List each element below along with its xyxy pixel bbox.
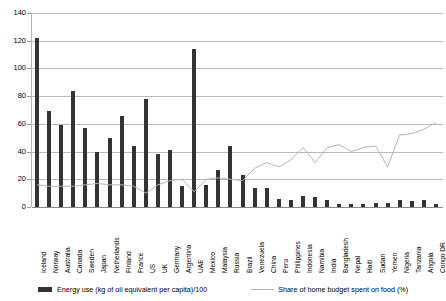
legend-label-food-budget: Share of home budget spent on food (%): [278, 285, 408, 294]
bar-swatch-icon: [38, 287, 52, 292]
y-tickmark-60: [27, 124, 31, 125]
y-tickmark-100: [27, 68, 31, 69]
x-tick-label: Peru: [282, 259, 289, 273]
x-tick-label: Mexico: [209, 252, 216, 273]
bar: [156, 154, 160, 207]
bar: [313, 197, 317, 207]
bar: [71, 91, 75, 207]
bar: [241, 175, 245, 207]
x-tick-label: China: [270, 256, 277, 273]
bar: [398, 200, 402, 207]
bar: [337, 204, 341, 207]
bar: [374, 203, 378, 207]
x-tick-label: India: [330, 259, 337, 273]
x-tick-label: US: [149, 264, 156, 273]
y-tick-label-0: 0: [22, 203, 26, 211]
bar: [301, 196, 305, 207]
gridline-0: [32, 207, 443, 208]
chart-container: 020406080100120140 IcelandNorwayAustrali…: [0, 0, 446, 301]
y-tickmark-120: [27, 41, 31, 42]
x-tick-label: Namibia: [318, 249, 325, 273]
bar: [192, 49, 196, 207]
bar: [386, 203, 390, 207]
bar: [132, 146, 136, 207]
bar: [253, 188, 257, 207]
bar: [83, 128, 87, 207]
x-tick-label: Indonesia: [306, 244, 313, 273]
x-axis-labels: IcelandNorwayAustraliaCanadaSwedenJapanN…: [31, 209, 442, 275]
bar: [35, 38, 39, 207]
bar: [144, 99, 148, 207]
bar-series: [31, 13, 442, 207]
x-tick-label: Sudan: [379, 254, 386, 273]
legend-label-energy-use: Energy use (kg of oil equivalent per cap…: [57, 285, 207, 294]
bar: [168, 150, 172, 207]
x-tick-label: Argentina: [185, 245, 192, 273]
y-axis: 020406080100120140: [0, 0, 28, 215]
bar: [47, 111, 51, 207]
bar: [325, 200, 329, 207]
y-tick-label-120: 120: [13, 37, 26, 45]
bar: [59, 125, 63, 207]
bar: [120, 116, 124, 207]
x-tick-label: Bangladesh: [342, 238, 349, 273]
bar: [204, 185, 208, 207]
x-tick-label: Norway: [52, 251, 59, 273]
x-tick-label: Congo DR: [439, 242, 446, 273]
y-tick-label-140: 140: [13, 9, 26, 17]
x-tick-label: Russia: [233, 253, 240, 273]
bar: [108, 138, 112, 207]
bar: [216, 170, 220, 207]
x-tick-label: Netherlands: [113, 237, 120, 273]
bar: [289, 200, 293, 207]
x-tick-label: Japan: [100, 255, 107, 273]
bar: [422, 200, 426, 207]
x-tick-label: Yemen: [391, 253, 398, 273]
bar: [95, 152, 99, 207]
y-tickmark-80: [27, 96, 31, 97]
bar: [180, 186, 184, 207]
y-tick-label-40: 40: [18, 148, 26, 156]
legend-item-energy-use: Energy use (kg of oil equivalent per cap…: [38, 285, 207, 294]
y-tickmark-40: [27, 152, 31, 153]
bar: [434, 204, 438, 207]
x-tick-label: UAE: [197, 259, 204, 273]
x-tick-label: Venezuela: [258, 242, 265, 273]
bar: [361, 204, 365, 207]
line-swatch-icon: [251, 289, 273, 290]
bar: [410, 201, 414, 207]
legend-item-food-budget: Share of home budget spent on food (%): [251, 285, 408, 294]
y-tickmark-20: [27, 179, 31, 180]
y-tick-label-100: 100: [13, 64, 26, 72]
y-tick-label-80: 80: [18, 92, 26, 100]
y-tickmark-140: [27, 13, 31, 14]
x-tick-label: Canada: [76, 250, 83, 273]
x-tick-label: Philippines: [294, 241, 301, 273]
x-tick-label: UK: [161, 264, 168, 273]
x-tick-label: Angola: [427, 252, 434, 273]
x-tick-label: Brazil: [246, 257, 253, 274]
bar: [228, 146, 232, 207]
y-tick-label-60: 60: [18, 120, 26, 128]
x-tick-label: France: [137, 252, 144, 273]
bar: [349, 204, 353, 207]
x-tick-label: Nepal: [354, 256, 361, 273]
x-tick-label: Haiti: [366, 260, 373, 273]
bar: [265, 188, 269, 207]
x-tick-label: Germany: [173, 246, 180, 273]
x-tick-label: Malaysia: [221, 247, 228, 273]
x-tick-label: Sweden: [88, 249, 95, 273]
x-tick-label: Iceland: [40, 252, 47, 273]
y-tick-label-20: 20: [18, 175, 26, 183]
x-tick-label: Finland: [125, 251, 132, 273]
plot-wrapper: 020406080100120140 IcelandNorwayAustrali…: [0, 0, 446, 215]
chart-legend: Energy use (kg of oil equivalent per cap…: [0, 281, 446, 297]
x-tick-label: Nigeria: [403, 252, 410, 273]
bar: [277, 199, 281, 207]
y-tickmark-0: [27, 207, 31, 208]
x-tick-label: Tanzania: [415, 247, 422, 273]
x-tick-label: Australia: [64, 247, 71, 273]
